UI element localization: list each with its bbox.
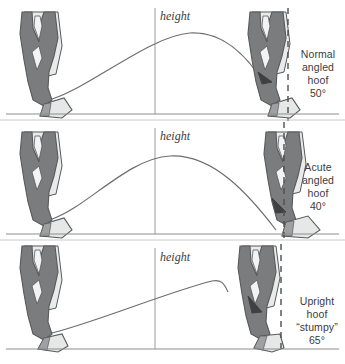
right-hoof-normal [248,12,300,118]
caption-upright-line-3: “stumpy” [290,321,344,334]
caption-normal-line-2: angled [294,61,342,74]
left-hoof-acute [20,132,72,238]
caption-upright-line-2: hoof [290,308,344,321]
flight-arc-normal [52,33,266,99]
panel-normal [6,8,339,121]
left-hoof-normal [20,12,72,118]
caption-normal-line-4: 50° [294,87,342,100]
right-hoof-upright [238,246,284,352]
caption-acute-line-2: angled [294,174,342,187]
caption-normal: Normal angled hoof 50° [294,48,342,100]
caption-upright: Upright hoof “stumpy” 65° [290,295,344,347]
flight-arc-upright [52,280,228,333]
left-hoof-upright [20,246,68,352]
height-label-upright: height [160,250,190,265]
caption-acute-line-3: hoof [294,187,342,200]
hoof-angle-figure: height height height Normal angled hoof … [0,0,345,364]
caption-upright-line-4: 65° [290,334,344,347]
caption-normal-line-1: Normal [294,48,342,61]
height-label-acute: height [160,129,190,144]
caption-upright-line-1: Upright [290,295,344,308]
caption-acute-line-4: 40° [294,200,342,213]
caption-acute-line-1: Acute [294,161,342,174]
flight-arc-acute [52,156,276,230]
caption-acute: Acute angled hoof 40° [294,161,342,213]
height-label-normal: height [160,9,190,24]
caption-normal-line-3: hoof [294,74,342,87]
